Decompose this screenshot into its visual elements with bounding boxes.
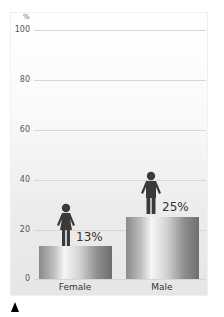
bar-female (39, 246, 112, 279)
y-axis-unit: % (23, 13, 30, 21)
gridline-60 (34, 130, 206, 131)
value-label-male: 25% (162, 200, 189, 214)
y-tick-60: 60 (0, 125, 30, 135)
y-tick-100: 100 (0, 25, 30, 35)
bar-male (126, 217, 199, 279)
gridline-40 (34, 180, 206, 181)
triangle-up-icon (11, 302, 19, 312)
gridline-100 (34, 30, 206, 31)
category-label-female: Female (38, 282, 112, 292)
y-tick-40: 40 (0, 175, 30, 185)
male-figure-icon (140, 171, 162, 215)
y-tick-80: 80 (0, 75, 30, 85)
gridline-80 (34, 80, 206, 81)
y-tick-20: 20 (0, 225, 30, 235)
category-label-male: Male (125, 282, 199, 292)
y-tick-0: 0 (0, 274, 30, 284)
value-label-female: 13% (76, 230, 103, 244)
gridline-0 (34, 279, 206, 280)
female-figure-icon (55, 203, 77, 247)
